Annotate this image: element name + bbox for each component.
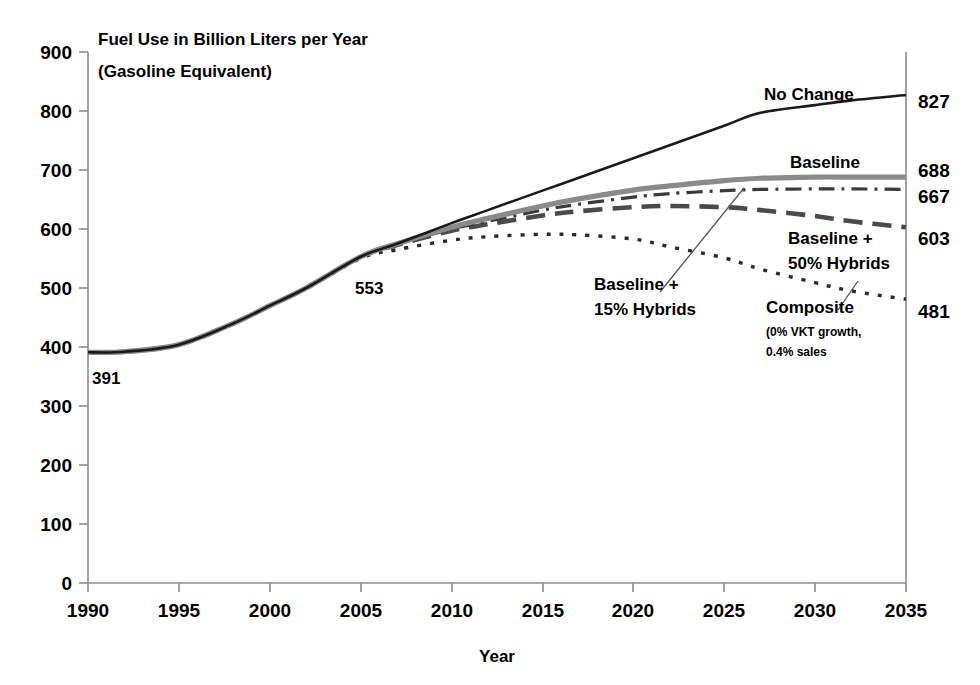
chart-title: Fuel Use in Billion Liters per Year — [98, 30, 368, 49]
y-tick-800: 800 — [40, 101, 72, 122]
chart-subtitle: (Gasoline Equivalent) — [98, 62, 272, 81]
x-tick-2020: 2020 — [612, 600, 654, 621]
end-value-688: 688 — [918, 160, 950, 181]
annotation-value-553: 553 — [355, 279, 383, 298]
composite-sub-line2: 0.4% sales — [766, 345, 827, 359]
end-value-827: 827 — [918, 91, 950, 112]
series-label-composite: Composite — [766, 298, 854, 317]
end-value-603: 603 — [918, 228, 950, 249]
x-axis-title: Year — [479, 647, 515, 666]
x-tick-1990: 1990 — [67, 600, 109, 621]
y-tick-600: 600 — [40, 219, 72, 240]
end-value-481: 481 — [918, 301, 950, 322]
x-tick-2025: 2025 — [703, 600, 746, 621]
y-tick-200: 200 — [40, 455, 72, 476]
x-tick-2000: 2000 — [249, 600, 291, 621]
y-tick-700: 700 — [40, 160, 72, 181]
x-tick-1995: 1995 — [158, 600, 201, 621]
y-tick-100: 100 — [40, 514, 72, 535]
x-tick-2010: 2010 — [431, 600, 473, 621]
y-tick-400: 400 — [40, 337, 72, 358]
y-tick-500: 500 — [40, 278, 72, 299]
x-tick-2005: 2005 — [340, 600, 383, 621]
series-label-no-change: No Change — [764, 85, 854, 104]
annotation-value-391: 391 — [92, 369, 120, 388]
fuel-use-line-chart: 0 100 200 300 400 500 600 700 800 900 19… — [0, 0, 980, 685]
x-tick-2015: 2015 — [522, 600, 565, 621]
series-label-15-hybrids-line1: Baseline + — [594, 275, 679, 294]
y-tick-300: 300 — [40, 396, 72, 417]
y-tick-0: 0 — [61, 573, 72, 594]
series-label-baseline: Baseline — [790, 153, 860, 172]
x-tick-2030: 2030 — [794, 600, 836, 621]
series-label-15-hybrids-line2: 15% Hybrids — [594, 300, 696, 319]
x-tick-2035: 2035 — [885, 600, 928, 621]
y-tick-900: 900 — [40, 42, 72, 63]
end-value-667: 667 — [918, 186, 950, 207]
composite-sub-line1: (0% VKT growth, — [766, 325, 861, 339]
series-label-50-hybrids-line1: Baseline + — [788, 229, 873, 248]
series-label-50-hybrids-line2: 50% Hybrids — [788, 254, 890, 273]
